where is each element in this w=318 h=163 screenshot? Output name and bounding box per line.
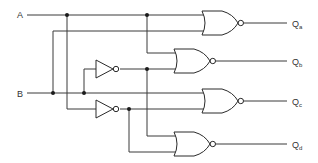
nor-gate-qb-icon [174,49,216,73]
nor-gate-qa-icon [202,11,244,35]
input-label-b: B [17,89,23,99]
junction-dot [65,13,69,17]
nor-gate-qc-icon [202,89,244,113]
junction-dot [51,91,55,95]
inverter-a-icon [96,100,119,118]
inverter-b-icon [96,60,119,78]
input-label-a: A [17,10,23,20]
junction-dot [127,107,131,111]
output-label-qb: Qb [292,57,303,68]
logic-circuit-diagram: A B [0,0,318,163]
output-label-qc: Qc [292,97,302,108]
output-label-qa: Qa [292,19,303,30]
nor-gate-qd-icon [174,132,216,156]
junction-dot [145,13,149,17]
junction-dot [145,67,149,71]
junction-dot [82,91,86,95]
output-label-qd: Qd [292,140,302,151]
